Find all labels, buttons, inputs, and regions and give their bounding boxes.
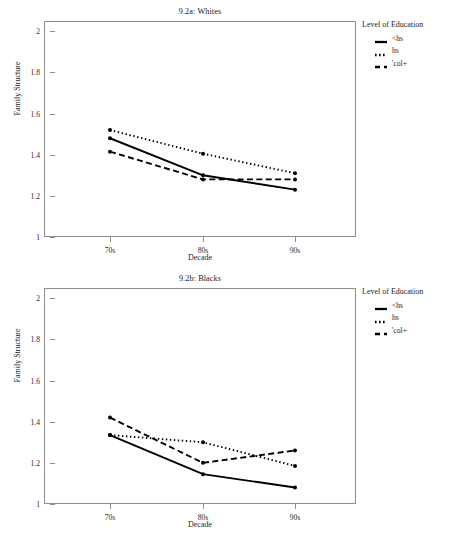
y-tick-label: 1.4 (31, 150, 41, 159)
legend-items: <hshs'col+ (362, 300, 452, 335)
y-tick-label: 1 (36, 233, 40, 242)
y-tick-mark (50, 196, 55, 197)
y-tick-label: 1.6 (31, 109, 41, 118)
y-tick-mark (50, 155, 55, 156)
legend-swatch-solid-icon (375, 33, 390, 43)
y-tick-mark (50, 298, 55, 299)
legend-title: Level of Education (362, 287, 452, 296)
legend-title: Level of Education (362, 20, 452, 29)
x-axis-title: Decade (44, 520, 356, 529)
chart-panel-blacks: 9.2b: Blacks 11.21.41.61.82 70s80s90s De… (0, 267, 452, 534)
y-tick-mark (50, 381, 55, 382)
legend-swatch-dotted-icon (375, 313, 390, 323)
legend-item: <hs (375, 33, 452, 43)
legend-swatch-solid-icon (375, 300, 390, 310)
y-axis-title: Family Structure (13, 296, 22, 416)
legend-swatch-dashed-icon (375, 325, 390, 335)
y-tick-label: 1.8 (31, 68, 41, 77)
x-tick-mark (110, 237, 111, 242)
chart-title: 9.2a: Whites (44, 7, 356, 16)
y-tick-mark (50, 72, 55, 73)
y-axis-title: Family Structure (13, 29, 22, 149)
y-tick-mark (50, 31, 55, 32)
legend-item: hs (375, 46, 452, 56)
x-tick-mark (295, 237, 296, 242)
y-tick-mark (50, 422, 55, 423)
y-tick-mark (50, 114, 55, 115)
legend-label: hs (392, 46, 399, 55)
x-tick-mark (110, 504, 111, 509)
legend-swatch-dotted-icon (375, 46, 390, 56)
legend-item: 'col+ (375, 58, 452, 68)
legend-item: 'col+ (375, 325, 452, 335)
legend-label: <hs (392, 301, 403, 310)
y-tick-label: 1.4 (31, 417, 41, 426)
legend-label: <hs (392, 34, 403, 43)
legend-swatch-dashed-icon (375, 58, 390, 68)
y-tick-label: 2 (36, 294, 40, 303)
y-tick-mark (50, 463, 55, 464)
legend-item: hs (375, 313, 452, 323)
chart-title: 9.2b: Blacks (44, 274, 356, 283)
legend-label: 'col+ (392, 326, 407, 335)
y-tick-label: 1.2 (31, 458, 41, 467)
x-tick-mark (203, 237, 204, 242)
legend: Level of Education <hshs'col+ (362, 287, 452, 338)
legend-label: hs (392, 313, 399, 322)
x-axis-title: Decade (44, 253, 356, 262)
y-tick-mark (50, 339, 55, 340)
legend-item: <hs (375, 300, 452, 310)
legend: Level of Education <hshs'col+ (362, 20, 452, 71)
x-tick-mark (295, 504, 296, 509)
y-tick-label: 1.8 (31, 335, 41, 344)
legend-items: <hshs'col+ (362, 33, 452, 68)
x-tick-mark (203, 504, 204, 509)
y-tick-label: 2 (36, 27, 40, 36)
plot-area (44, 21, 356, 237)
legend-label: 'col+ (392, 59, 407, 68)
y-tick-label: 1.2 (31, 191, 41, 200)
y-tick-label: 1.6 (31, 376, 41, 385)
y-tick-label: 1 (36, 500, 40, 509)
plot-area (44, 288, 356, 504)
chart-panel-whites: 9.2a: Whites 11.21.41.61.82 70s80s90s De… (0, 0, 452, 267)
